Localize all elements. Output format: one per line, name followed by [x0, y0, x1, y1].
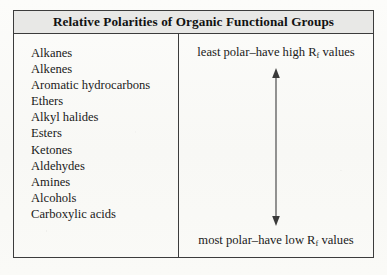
double-headed-vertical-arrow-icon: [269, 68, 283, 226]
least-polar-label-prefix: least polar–have high R: [197, 45, 316, 59]
list-item: Aromatic hydrocarbons: [31, 77, 178, 93]
list-item: Esters: [31, 125, 178, 141]
list-item: Alkenes: [31, 61, 178, 77]
most-polar-label-prefix: most polar–have low R: [198, 233, 315, 247]
list-item: Alcohols: [31, 190, 178, 206]
list-item: Carboxylic acids: [31, 206, 178, 222]
table-header: Relative Polarities of Organic Functiona…: [14, 11, 373, 34]
list-item: Alkyl halides: [31, 109, 178, 125]
polarity-scale-cell: least polar–have high Rf values most pol…: [179, 34, 373, 258]
list-item: Ethers: [31, 93, 178, 109]
table-title: Relative Polarities of Organic Functiona…: [53, 14, 334, 30]
functional-group-list: Alkanes Alkenes Aromatic hydrocarbons Et…: [31, 45, 178, 222]
least-polar-label-suffix: values: [319, 45, 354, 59]
most-polar-label: most polar–have low Rf values: [198, 233, 353, 249]
least-polar-label-subscript: f: [317, 51, 320, 60]
arrow-container: [185, 61, 367, 233]
polarity-table: Relative Polarities of Organic Functiona…: [13, 10, 374, 258]
list-item: Amines: [31, 174, 178, 190]
functional-groups-cell: Alkanes Alkenes Aromatic hydrocarbons Et…: [14, 34, 179, 258]
list-item: Aldehydes: [31, 158, 178, 174]
list-item: Ketones: [31, 142, 178, 158]
most-polar-label-suffix: values: [318, 233, 353, 247]
most-polar-label-subscript: f: [316, 239, 319, 248]
least-polar-label: least polar–have high Rf values: [197, 45, 354, 61]
table-body: Alkanes Alkenes Aromatic hydrocarbons Et…: [14, 34, 373, 258]
list-item: Alkanes: [31, 45, 178, 61]
